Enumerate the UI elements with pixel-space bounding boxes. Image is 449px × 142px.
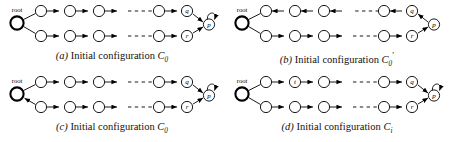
node-root <box>235 16 248 29</box>
node-top-3 <box>93 76 104 87</box>
graph-svg-b: root q r p <box>225 0 449 52</box>
node-q-label: q <box>410 7 414 15</box>
root-label: root <box>237 6 248 13</box>
node-bottom-3 <box>318 30 329 41</box>
caption-subscript-a: 0 <box>165 56 169 64</box>
node-bottom-3 <box>318 101 329 112</box>
node-root <box>10 87 23 100</box>
node-top-1 <box>260 76 271 87</box>
node-bottom-2 <box>64 30 75 41</box>
edge-r-to-p <box>193 98 203 104</box>
node-bottom-1 <box>260 30 271 41</box>
caption-text-c: Initial configuration <box>70 121 154 132</box>
caption-text-d: Initial configuration <box>296 121 380 132</box>
caption-text-b: Initial configuration <box>295 54 379 65</box>
edge-bottom-to-root <box>25 98 36 104</box>
node-bottom-3 <box>93 101 104 112</box>
caption-subscript-b: 0 <box>389 60 393 68</box>
node-top-4 <box>378 5 389 16</box>
node-top-4 <box>153 5 164 16</box>
node-bottom-2 <box>289 30 300 41</box>
graph-diagram-a: root q r p <box>0 0 224 52</box>
edge-root-bottom <box>24 27 36 34</box>
edge-r-to-p <box>418 27 428 33</box>
edge-p-to-q <box>418 14 428 22</box>
edge-root-top <box>24 14 36 20</box>
node-top-2 <box>289 5 300 16</box>
graph-svg-d: root t q r p <box>225 71 449 123</box>
caption-text-a: Initial configuration <box>71 50 155 61</box>
graph-diagram-b: root q r p <box>225 0 449 52</box>
node-top-3 <box>93 5 104 16</box>
edge-q-to-p <box>193 14 203 22</box>
node-top-2 <box>64 5 75 16</box>
figure-panel-b: root q r p (b) Initial configuration C0′ <box>225 0 449 71</box>
node-bottom-4 <box>378 101 389 112</box>
node-p-label: p <box>431 92 436 100</box>
node-bottom-4 <box>378 30 389 41</box>
node-bottom-2 <box>289 101 300 112</box>
node-r-label: r <box>411 32 414 40</box>
graph-svg-c: root q r p <box>0 71 224 123</box>
node-top-1 <box>35 5 46 16</box>
node-bottom-4 <box>153 101 164 112</box>
node-q-label: q <box>185 78 189 86</box>
panel-caption-b: (b) Initial configuration C0′ <box>225 49 449 71</box>
node-bottom-1 <box>35 101 46 112</box>
node-top-3 <box>318 5 329 16</box>
caption-symbol-b: C <box>382 54 389 65</box>
node-bottom-3 <box>93 30 104 41</box>
node-p-label: p <box>431 21 436 29</box>
node-bottom-1 <box>35 30 46 41</box>
node-top-3 <box>318 76 329 87</box>
node-bottom-2 <box>64 101 75 112</box>
graph-svg-a: root q r p <box>0 0 224 52</box>
node-bottom-4 <box>153 30 164 41</box>
node-top-1 <box>35 76 46 87</box>
node-top-4 <box>153 76 164 87</box>
caption-subscript-d: i <box>390 127 392 135</box>
root-label: root <box>12 77 23 84</box>
figure-panel-c: root q r p (c) Initial configuration C0 <box>0 71 224 142</box>
node-r-label: r <box>186 103 189 111</box>
node-r-label: r <box>411 103 414 111</box>
edge-root-top <box>249 14 261 20</box>
graph-diagram-c: root q r p <box>0 71 224 123</box>
caption-subscript-c: 0 <box>164 127 168 135</box>
node-p-label: p <box>206 92 211 100</box>
edge-root-top <box>24 85 36 91</box>
figure-grid: root q r p (a) Initial configuration C0 <box>0 0 449 142</box>
node-r-label: r <box>186 32 189 40</box>
node-q-label: q <box>185 7 189 15</box>
node-bottom-1 <box>260 101 271 112</box>
caption-letter-a: (a) <box>56 50 68 61</box>
node-top-1 <box>260 5 271 16</box>
caption-letter-c: (c) <box>56 121 68 132</box>
node-top-2 <box>64 76 75 87</box>
root-label: root <box>237 77 248 84</box>
node-q-label: q <box>410 78 414 86</box>
panel-caption-c: (c) Initial configuration C0 <box>0 120 224 138</box>
panel-caption-d: (d) Initial configuration Ci <box>225 120 449 138</box>
root-label: root <box>12 6 23 13</box>
node-p-label: p <box>206 21 211 29</box>
graph-diagram-d: root t q r p <box>225 71 449 123</box>
node-root <box>235 87 248 100</box>
edge-r-to-p <box>418 98 428 104</box>
figure-panel-a: root q r p (a) Initial configuration C0 <box>0 0 224 71</box>
figure-panel-d: root t q r p (d) Initial configuration C… <box>225 71 449 142</box>
edge-r-to-p <box>193 27 203 33</box>
edge-q-to-p <box>418 85 428 93</box>
caption-letter-d: (d) <box>282 121 294 132</box>
edge-root-top <box>249 85 261 91</box>
edge-root-bottom <box>249 27 261 34</box>
edge-q-to-p <box>193 85 203 93</box>
panel-caption-a: (a) Initial configuration C0 <box>0 49 224 67</box>
edge-root-bottom <box>249 98 261 105</box>
caption-letter-b: (b) <box>280 54 292 65</box>
caption-prime-b: ′ <box>392 50 394 60</box>
node-root <box>10 16 23 29</box>
caption-symbol-a: C <box>158 50 165 61</box>
node-top-4 <box>378 76 389 87</box>
